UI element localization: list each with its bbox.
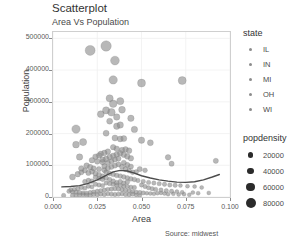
- legend-swatch-icon: [243, 183, 258, 191]
- legend-dot-icon: [246, 183, 254, 191]
- y-axis-ticks: 0100000200000300000400000500000: [0, 0, 49, 248]
- y-tick-label: 200000: [3, 129, 49, 136]
- legend-swatch-icon: [243, 152, 258, 157]
- x-tick-label: 0.100: [207, 203, 253, 210]
- x-tick-label: 0.050: [119, 203, 165, 210]
- legend-swatch-icon: [243, 168, 258, 175]
- legend-label-popdensity: 40000: [263, 167, 284, 176]
- legend-label-popdensity: 60000: [263, 183, 284, 192]
- legend-item-state-in[interactable]: IN: [243, 57, 301, 72]
- y-tick-mark: [49, 102, 52, 103]
- legend-item-state-mi[interactable]: MI: [243, 72, 301, 87]
- legend-label-state: OH: [263, 90, 274, 99]
- legend-popdensity-title: popdensity: [243, 133, 301, 143]
- legend-label-state: MI: [263, 75, 271, 84]
- legend-dot-icon: [249, 108, 252, 111]
- legend-item-popdensity-60000[interactable]: 60000: [243, 179, 301, 195]
- legend-dot-icon: [249, 48, 252, 51]
- x-tick-mark: [186, 198, 187, 201]
- x-tick-mark: [53, 198, 54, 201]
- x-tick-label: 0.000: [30, 203, 76, 210]
- y-tick-label: 300000: [3, 97, 49, 104]
- y-tick-mark: [49, 197, 52, 198]
- plot-panel: [52, 31, 231, 198]
- legend-item-state-il[interactable]: IL: [243, 42, 301, 57]
- legend-dot-icon: [249, 63, 252, 66]
- x-tick-label: 0.025: [74, 203, 120, 210]
- scatterplot-figure: Scatterplot Area Vs Population Populatio…: [0, 0, 301, 248]
- legend-swatch-icon: [243, 48, 258, 51]
- legend-popdensity: popdensity 20000400006000080000: [243, 133, 301, 211]
- legend-item-popdensity-20000[interactable]: 20000: [243, 147, 301, 163]
- y-tick-label: 500000: [3, 33, 49, 40]
- legend-swatch-icon: [243, 63, 258, 66]
- y-tick-label: 0: [3, 192, 49, 199]
- legend-dot-icon: [247, 168, 254, 175]
- legend-dot-icon: [249, 78, 252, 81]
- legend-state: state ILINMIOHWI: [243, 28, 301, 117]
- legend-swatch-icon: [243, 78, 258, 81]
- legend-item-state-wi[interactable]: WI: [243, 102, 301, 117]
- y-tick-mark: [49, 134, 52, 135]
- legend-label-popdensity: 20000: [263, 151, 284, 160]
- x-axis-label: Area: [52, 214, 231, 224]
- legend-dot-icon: [248, 152, 253, 157]
- legend-state-title: state: [243, 28, 301, 38]
- chart-subtitle: Area Vs Population: [52, 17, 129, 27]
- legend-swatch-icon: [243, 93, 258, 96]
- legend-item-state-oh[interactable]: OH: [243, 87, 301, 102]
- legend-dot-icon: [249, 93, 252, 96]
- data-points: [61, 41, 218, 197]
- x-tick-mark: [142, 198, 143, 201]
- y-tick-mark: [49, 70, 52, 71]
- x-tick-label: 0.075: [163, 203, 209, 210]
- legend-label-state: WI: [263, 105, 272, 114]
- y-tick-mark: [49, 165, 52, 166]
- y-tick-label: 100000: [3, 160, 49, 167]
- legend-label-state: IN: [263, 60, 271, 69]
- legend-label-popdensity: 80000: [263, 199, 284, 208]
- y-tick-mark: [49, 38, 52, 39]
- legend-swatch-icon: [243, 108, 258, 111]
- chart-caption: Source: midwest: [165, 229, 218, 238]
- x-tick-mark: [97, 198, 98, 201]
- y-tick-label: 400000: [3, 65, 49, 72]
- legend-item-popdensity-40000[interactable]: 40000: [243, 163, 301, 179]
- x-tick-mark: [230, 198, 231, 201]
- chart-title: Scatterplot: [52, 2, 107, 14]
- legend-label-state: IL: [263, 45, 269, 54]
- plot-canvas: [53, 32, 230, 197]
